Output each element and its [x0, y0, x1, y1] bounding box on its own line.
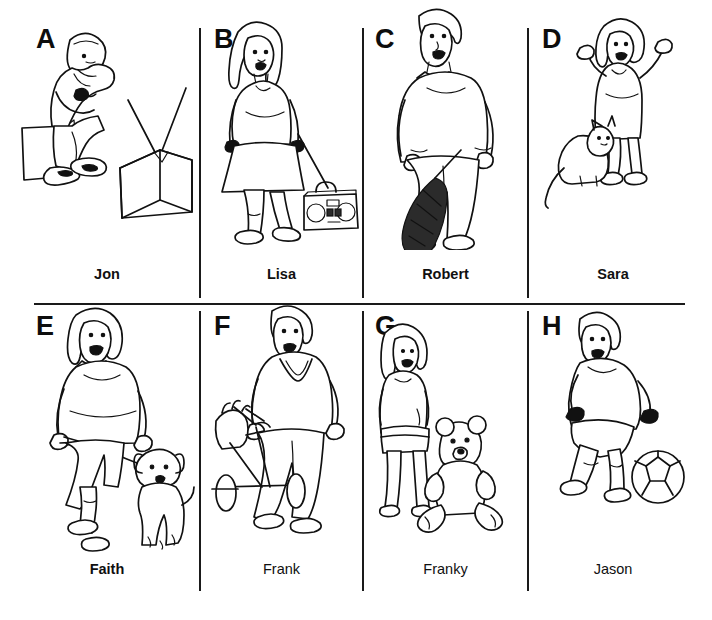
scene-jon-watching-tv: [14, 0, 200, 305]
panel-e[interactable]: E: [14, 305, 200, 620]
panel-g[interactable]: G: [363, 305, 528, 620]
panel-a[interactable]: A: [14, 0, 200, 305]
panel-name-faith: Faith: [14, 561, 200, 577]
panel-b[interactable]: B: [200, 0, 363, 305]
panel-f[interactable]: F: [200, 305, 363, 620]
scene-lisa-with-boombox: [200, 0, 363, 305]
panel-h[interactable]: H: [528, 305, 698, 620]
panel-name-franky: Franky: [363, 561, 528, 577]
panel-name-frank: Frank: [200, 561, 363, 577]
panel-d[interactable]: D: [528, 0, 698, 305]
panel-name-jon: Jon: [14, 266, 200, 282]
panel-row-top: A: [0, 0, 712, 305]
picture-sheet: A: [0, 0, 712, 620]
panel-name-jason: Jason: [528, 561, 698, 577]
panel-name-robert: Robert: [363, 266, 528, 282]
scene-robert-with-racquet: [363, 0, 528, 305]
panel-name-lisa: Lisa: [200, 266, 363, 282]
panel-name-sara: Sara: [528, 266, 698, 282]
panel-row-bottom: E: [0, 305, 712, 620]
panel-c[interactable]: C: [363, 0, 528, 305]
scene-sara-with-cat: [528, 0, 698, 305]
